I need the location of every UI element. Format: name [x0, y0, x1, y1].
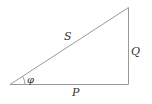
label-q: Q [131, 45, 140, 58]
label-s: S [64, 30, 72, 43]
power-triangle-diagram: S Q P φ [0, 0, 152, 104]
label-phi: φ [27, 74, 34, 85]
triangle-svg: S Q P φ [0, 0, 152, 104]
side-s [10, 8, 129, 85]
label-p: P [71, 86, 80, 99]
angle-arc [23, 76, 25, 84]
